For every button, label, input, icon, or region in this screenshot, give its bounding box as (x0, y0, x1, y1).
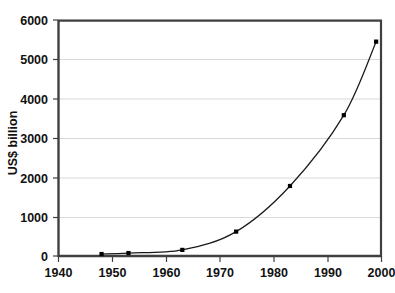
x-tick-label-1960: 1960 (153, 266, 181, 280)
x-tick-label-1990: 1990 (314, 266, 342, 280)
x-tick-label-1980: 1980 (260, 266, 288, 280)
data-point-1999 (374, 40, 378, 44)
x-tick-label-1950: 1950 (99, 266, 127, 280)
data-point-1983 (288, 184, 292, 188)
y-axis-title: US$ billion (6, 111, 20, 176)
data-point-1948 (99, 252, 103, 256)
line-chart: 6000 5000 4000 3000 2000 1000 0 1940 195… (0, 0, 395, 293)
data-point-1993 (342, 113, 346, 117)
chart-figure: 6000 5000 4000 3000 2000 1000 0 1940 195… (0, 0, 395, 293)
y-tick-label-1000: 1000 (20, 211, 48, 225)
y-tick-label-3000: 3000 (20, 132, 48, 146)
data-point-1963 (180, 248, 184, 252)
x-tick-label-1940: 1940 (45, 266, 73, 280)
y-tick-label-2000: 2000 (20, 172, 48, 186)
data-point-1973 (234, 230, 238, 234)
y-tick-label-5000: 5000 (20, 53, 48, 67)
x-tick-label-1970: 1970 (206, 266, 234, 280)
x-tick-label-2000: 2000 (368, 266, 395, 280)
y-tick-label-6000: 6000 (20, 14, 48, 28)
y-tick-label-4000: 4000 (20, 93, 48, 107)
y-tick-label-0: 0 (41, 250, 48, 264)
data-point-1953 (126, 251, 130, 255)
